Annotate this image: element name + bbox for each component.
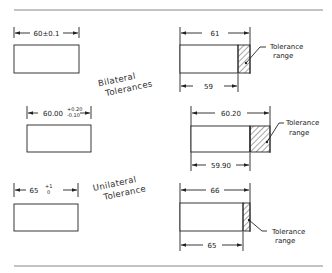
row3-min-dimension: 65 <box>208 242 217 250</box>
row1-tolerance-zone <box>238 45 250 73</box>
row1-callout-line1: Tolerance <box>269 43 303 51</box>
row2-right-rect <box>191 126 250 152</box>
row3-left-rect <box>14 204 78 231</box>
row2-tolerance-zone <box>250 126 270 152</box>
row2-min-dimension: 59.90 <box>211 162 231 170</box>
row1-right-part: 61 59 Tolerance range <box>180 27 303 92</box>
row3-nominal: 65 <box>30 187 39 195</box>
row2-max-dimension: 60.20 <box>221 110 241 118</box>
row1-right-rect <box>180 45 238 73</box>
row3-tolerance-zone <box>243 203 250 231</box>
row3-lower-tolerance: 0 <box>47 189 50 195</box>
row1-max-dimension: 61 <box>211 30 220 38</box>
tolerance-diagram: 60±0.1 Bilateral Tolerances 61 59 Tolera… <box>0 0 332 273</box>
row2-callout-line1: Tolerance <box>285 119 319 127</box>
row3-right-rect <box>180 203 243 231</box>
row3-leader-line <box>249 220 267 231</box>
row2-nominal: 60.00 <box>43 110 63 118</box>
bilateral-label: Bilateral Tolerances <box>97 68 153 100</box>
unilateral-label: Unilateral Tolerance <box>92 173 147 204</box>
row2-lower-tolerance: -0.10 <box>67 112 80 118</box>
row3-max-dimension: 66 <box>211 187 220 195</box>
row1-left-part: 60±0.1 <box>14 27 79 73</box>
row2-left-rect <box>27 125 91 152</box>
row1-min-dimension: 59 <box>204 83 213 91</box>
row1-left-dimension: 60±0.1 <box>34 30 60 38</box>
row2-right-part: 60.20 59.90 Tolerance range <box>191 106 319 171</box>
row1-left-rect <box>14 45 79 73</box>
row2-left-part: 60.00 +0.20 -0.10 <box>27 106 91 152</box>
row1-callout-line2: range <box>273 52 293 60</box>
row3-right-part: 66 65 Tolerance range <box>180 183 305 251</box>
row3-callout-line2: range <box>275 237 295 245</box>
row3-callout-line1: Tolerance <box>271 228 305 236</box>
row3-left-part: 65 +1 0 <box>14 183 78 231</box>
row2-callout-line2: range <box>289 129 309 137</box>
